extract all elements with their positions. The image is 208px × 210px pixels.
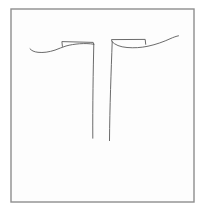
screenshot-root xyxy=(0,0,208,210)
sketch-canvas xyxy=(0,0,208,210)
frame-border xyxy=(11,9,194,202)
